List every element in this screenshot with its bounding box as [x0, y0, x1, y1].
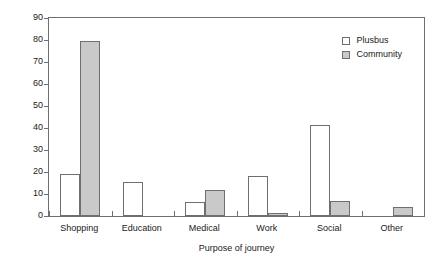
y-axis-tick [44, 150, 49, 151]
y-axis-tick [44, 216, 49, 217]
y-axis-tick [44, 106, 49, 107]
x-axis-tick [299, 211, 300, 216]
x-axis-label-other: Other [347, 222, 437, 234]
bar-work-plusbus [248, 176, 268, 216]
y-axis-tick-label: 0 [3, 211, 43, 220]
y-axis-tick-label: 40 [3, 123, 43, 132]
y-axis-tick [44, 40, 49, 41]
x-axis-tick [174, 211, 175, 216]
bar-education-plusbus [123, 182, 143, 216]
y-axis-tick-label: 20 [3, 167, 43, 176]
legend-label-community: Community [356, 48, 402, 61]
y-axis-tick [44, 18, 49, 19]
x-axis-tick [112, 211, 113, 216]
legend-swatch-icon-community [342, 51, 350, 59]
y-axis-tick-label: 70 [3, 57, 43, 66]
x-axis-tick [49, 211, 50, 216]
y-axis-tick-label: 50 [3, 101, 43, 110]
chart-legend: Plusbus Community [342, 34, 402, 62]
y-axis-tick [44, 84, 49, 85]
x-axis-title: Purpose of journey [48, 242, 425, 254]
legend-label-plusbus: Plusbus [356, 34, 388, 47]
x-axis-tick [424, 211, 425, 216]
y-axis-tick-label: 30 [3, 145, 43, 154]
y-axis-tick-label: 60 [3, 79, 43, 88]
x-axis-labels: ShoppingEducationMedicalWorkSocialOther [48, 222, 425, 236]
y-axis-tick-label: 90 [3, 13, 43, 22]
legend-item-community: Community [342, 48, 402, 61]
bar-shopping-plusbus [60, 174, 80, 216]
legend-item-plusbus: Plusbus [342, 34, 402, 47]
bar-social-community [330, 201, 350, 216]
y-axis-tick [44, 172, 49, 173]
x-axis-tick [237, 211, 238, 216]
y-axis-tick [44, 194, 49, 195]
legend-swatch-icon-plusbus [342, 37, 350, 45]
bar-other-community [393, 207, 413, 216]
bar-shopping-community [80, 41, 100, 216]
y-axis-tick [44, 62, 49, 63]
y-axis-labels: 0102030405060708090 [0, 17, 43, 217]
y-axis-tick [44, 128, 49, 129]
bar-medical-community [205, 190, 225, 216]
x-axis-tick [362, 211, 363, 216]
bar-work-community [268, 213, 288, 216]
bar-medical-plusbus [185, 202, 205, 216]
bar-social-plusbus [310, 125, 330, 216]
bar-chart-figure: Percentage 0102030405060708090 Plusbus C… [0, 0, 439, 278]
y-axis-tick-label: 10 [3, 189, 43, 198]
plot-area: Plusbus Community [48, 17, 425, 217]
y-axis-tick-label: 80 [3, 35, 43, 44]
